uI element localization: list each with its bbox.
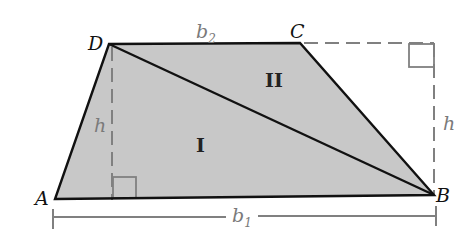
trapezoid-diagram: D C A B I II b2 b1 h h — [0, 0, 475, 247]
right-angle-marker-top-right — [409, 44, 434, 67]
region-label-ii: II — [265, 69, 283, 91]
top-base-label: b2 — [196, 20, 216, 46]
right-height-label: h — [443, 112, 455, 134]
vertex-label-b: B — [435, 184, 450, 206]
left-height-label: h — [94, 114, 106, 136]
bottom-base-label: b1 — [232, 204, 252, 230]
vertex-label-a: A — [33, 187, 49, 209]
vertex-label-c: C — [290, 20, 305, 42]
region-label-i: I — [196, 134, 205, 156]
vertex-label-d: D — [87, 32, 103, 54]
